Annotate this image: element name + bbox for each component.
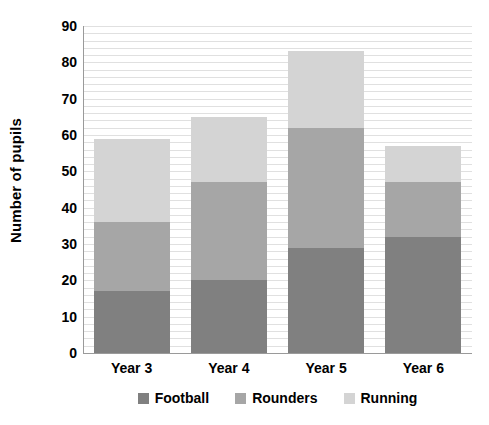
x-axis-tick-labels: Year 3Year 4Year 5Year 6 [83, 358, 472, 380]
y-tick-label: 20 [41, 273, 77, 287]
y-tick-label: 80 [41, 55, 77, 69]
y-tick-label: 60 [41, 128, 77, 142]
y-tick-label: 0 [41, 346, 77, 360]
y-tick-label: 50 [41, 164, 77, 178]
bar-segment-rounders[interactable] [94, 222, 170, 291]
bar-segment-rounders[interactable] [191, 182, 267, 280]
bar-group[interactable] [385, 26, 461, 353]
x-tick-label: Year 3 [83, 358, 180, 378]
bar-segment-rounders[interactable] [288, 128, 364, 248]
legend-label: Running [361, 391, 418, 405]
bar-segment-football[interactable] [94, 291, 170, 353]
legend-swatch-icon [235, 393, 246, 404]
legend-label: Football [155, 391, 209, 405]
bar-segment-football[interactable] [385, 237, 461, 353]
bar-segment-football[interactable] [191, 280, 267, 353]
bar-segment-football[interactable] [288, 248, 364, 353]
y-axis-tick-labels: 9080706050403020100 [36, 26, 77, 353]
plot-area [83, 26, 472, 353]
legend-item[interactable]: Football [138, 391, 209, 405]
bar-group[interactable] [94, 26, 170, 353]
y-tick-label: 70 [41, 92, 77, 106]
y-axis-line [83, 26, 84, 354]
bar-segment-running[interactable] [94, 139, 170, 223]
y-axis-title-label: Number of pupils [7, 118, 24, 243]
y-tick-label: 40 [41, 201, 77, 215]
chart-legend: FootballRoundersRunning [83, 386, 472, 410]
x-tick-label: Year 4 [180, 358, 277, 378]
x-axis-line [83, 353, 472, 354]
legend-swatch-icon [344, 393, 355, 404]
bar-group[interactable] [288, 26, 364, 353]
legend-label: Rounders [252, 391, 317, 405]
y-axis-title: Number of pupils [0, 0, 30, 360]
stacked-bar-chart: Number of pupils 9080706050403020100 Yea… [0, 0, 489, 425]
x-tick-label: Year 5 [278, 358, 375, 378]
bar-segment-rounders[interactable] [385, 182, 461, 237]
bar-group[interactable] [191, 26, 267, 353]
y-tick-label: 30 [41, 237, 77, 251]
legend-item[interactable]: Running [344, 391, 418, 405]
bar-segment-running[interactable] [191, 117, 267, 182]
bar-segment-running[interactable] [288, 51, 364, 127]
y-tick-label: 10 [41, 310, 77, 324]
x-tick-label: Year 6 [375, 358, 472, 378]
legend-swatch-icon [138, 393, 149, 404]
legend-item[interactable]: Rounders [235, 391, 317, 405]
bar-segment-running[interactable] [385, 146, 461, 182]
y-tick-label: 90 [41, 19, 77, 33]
